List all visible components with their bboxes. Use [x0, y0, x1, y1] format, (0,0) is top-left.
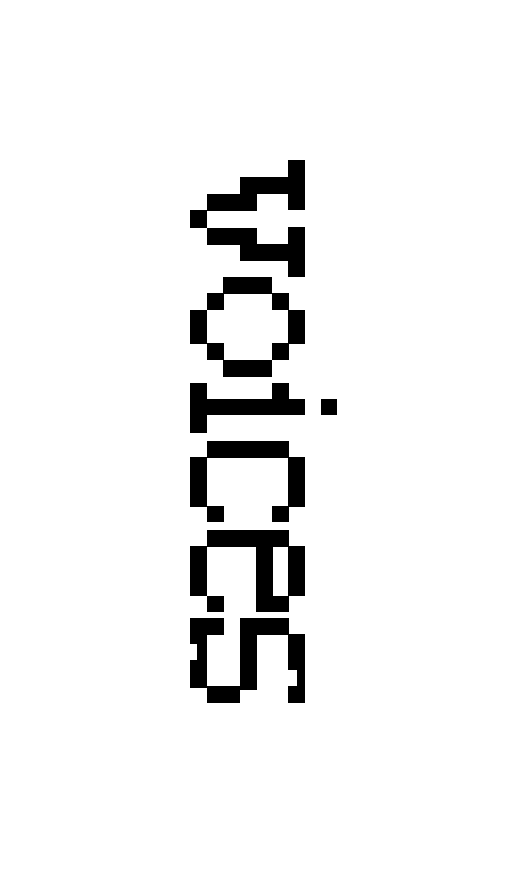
letter-e [190, 530, 305, 612]
letter-c [190, 441, 305, 522]
letter-i [190, 383, 337, 433]
letter-o [190, 277, 305, 377]
pixel-word-voices [0, 0, 522, 870]
i-dot [321, 399, 337, 415]
canvas: voices [0, 0, 522, 870]
letter-v [190, 160, 305, 277]
letter-s [190, 618, 305, 703]
